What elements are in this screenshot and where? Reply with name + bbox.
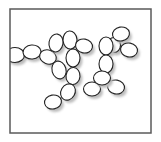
- cell-cluster-illustration: [0, 0, 161, 142]
- cell-body: [99, 37, 113, 55]
- cell-body: [66, 49, 80, 67]
- cell-body: [99, 55, 113, 73]
- background: [0, 0, 161, 142]
- cell-body: [94, 71, 111, 85]
